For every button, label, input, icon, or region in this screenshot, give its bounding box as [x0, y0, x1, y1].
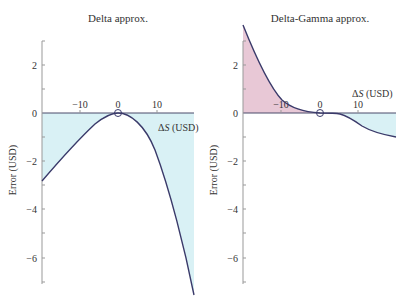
svg-text:0: 0 — [32, 108, 37, 119]
panel-delta-gamma: Delta-Gamma approx. 2 0 −2 −4 −6 −10 0 1… — [208, 12, 396, 284]
svg-text:−4: −4 — [227, 204, 238, 215]
svg-text:−4: −4 — [26, 204, 37, 215]
svg-text:−2: −2 — [26, 156, 37, 167]
svg-text:−6: −6 — [227, 253, 238, 264]
y-label-left: Error (USD) — [7, 145, 19, 195]
svg-text:0: 0 — [318, 99, 323, 110]
y-label-right: Error (USD) — [208, 145, 220, 195]
svg-text:2: 2 — [32, 60, 37, 71]
svg-text:2: 2 — [233, 60, 238, 71]
svg-text:0: 0 — [233, 108, 238, 119]
error-fill-left — [42, 113, 194, 295]
svg-text:−6: −6 — [26, 253, 37, 264]
svg-text:0: 0 — [116, 99, 121, 110]
chart-title-right: Delta-Gamma approx. — [271, 12, 370, 24]
chart-title-left: Delta approx. — [88, 12, 148, 24]
svg-text:−10: −10 — [72, 99, 88, 110]
panel-delta: Delta approx. 2 0 −2 −4 −6 −10 0 10 ΔS (… — [7, 12, 199, 295]
svg-text:−10: −10 — [273, 99, 289, 110]
chart-canvas: Delta approx. 2 0 −2 −4 −6 −10 0 10 ΔS (… — [0, 0, 404, 303]
svg-text:10: 10 — [353, 99, 363, 110]
svg-text:10: 10 — [152, 99, 162, 110]
svg-text:−2: −2 — [227, 156, 238, 167]
x-label-left: ΔS (USD) — [158, 122, 199, 134]
negative-error-fill — [335, 113, 396, 137]
x-label-right: ΔS (USD) — [352, 88, 393, 100]
